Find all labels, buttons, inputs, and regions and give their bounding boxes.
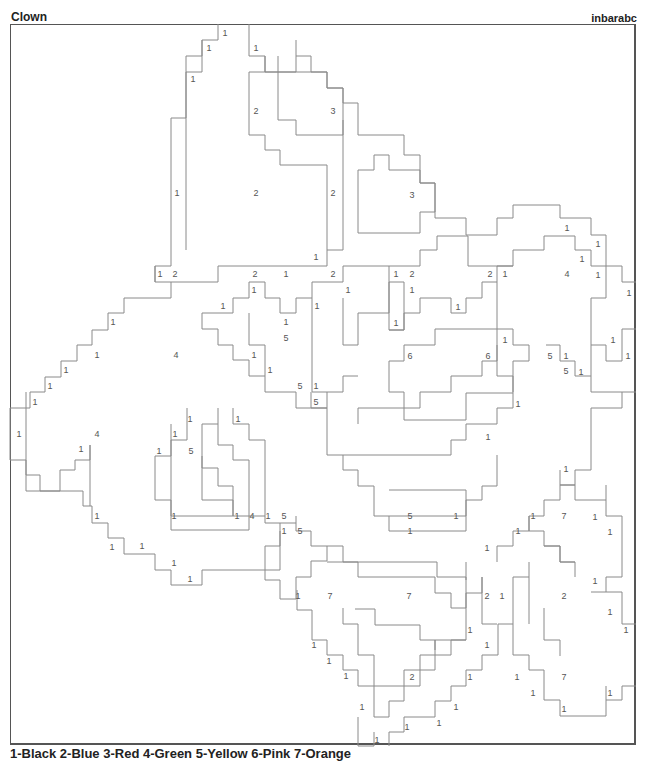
color-number-label: 1: [453, 512, 458, 521]
region-outline: [482, 577, 497, 624]
color-number-label: 1: [314, 302, 319, 311]
color-number-label: 1: [563, 352, 568, 361]
color-number-label: 2: [409, 270, 414, 279]
region-outline: [343, 455, 497, 516]
color-number-label: 2: [409, 673, 414, 682]
color-number-label: 2: [252, 270, 257, 279]
color-number-label: 2: [330, 189, 335, 198]
color-number-label: 1: [343, 672, 348, 681]
color-number-label: 1: [94, 351, 99, 360]
color-number-label: 6: [485, 352, 490, 361]
color-number-label: 1: [579, 255, 584, 264]
region-outline: [312, 298, 327, 392]
color-number-label: 1: [467, 673, 472, 682]
color-number-label: 7: [406, 592, 411, 601]
region-outline: [26, 392, 296, 585]
color-number-label: 1: [530, 689, 535, 698]
color-number-label: 1: [171, 512, 176, 521]
color-number-label: 7: [561, 512, 566, 521]
region-outline: [233, 408, 280, 523]
color-number-label: 5: [547, 352, 552, 361]
color-number-label: 5: [283, 334, 288, 343]
region-outline: [358, 155, 435, 233]
region-outline: [544, 546, 575, 562]
color-number-label: 1: [485, 433, 490, 442]
color-number-label: 6: [407, 352, 412, 361]
color-number-label: 1: [578, 368, 583, 377]
color-number-label: 1: [281, 527, 286, 536]
region-outline: [278, 40, 343, 135]
region-outline: [186, 40, 202, 250]
color-number-label: 1: [171, 559, 176, 568]
color-number-label: 1: [251, 286, 256, 295]
color-number-label: 1: [47, 382, 52, 391]
color-number-label: 1: [374, 736, 379, 745]
color-number-label: 4: [94, 430, 99, 439]
region-outline: [265, 531, 327, 599]
region-outline: [355, 609, 435, 650]
color-number-label: 1: [607, 689, 612, 698]
region-outline: [560, 470, 636, 624]
color-number-label: 1: [530, 512, 535, 521]
color-number-label: 3: [409, 191, 414, 200]
color-number-label: 1: [563, 465, 568, 474]
color-number-label: 1: [623, 626, 628, 635]
color-number-label: 2: [172, 270, 177, 279]
color-number-label: 1: [467, 626, 472, 635]
color-number-label: 1: [283, 318, 288, 327]
region-outline: [202, 236, 437, 408]
color-number-label: 1: [265, 512, 270, 521]
color-number-label: 2: [253, 107, 258, 116]
region-outline: [296, 516, 466, 580]
color-number-label: 1: [187, 415, 192, 424]
color-number-label: 4: [173, 351, 178, 360]
region-outline: [327, 562, 482, 608]
color-number-label: 1: [234, 512, 239, 521]
color-number-label: 1: [561, 705, 566, 714]
color-number-label: 1: [172, 430, 177, 439]
color-number-label: 1: [206, 44, 211, 53]
region-outline: [358, 717, 374, 746]
color-number-label: 4: [564, 270, 569, 279]
color-number-label: 1: [592, 577, 597, 586]
color-number-label: 1: [502, 336, 507, 345]
color-number-label: 1: [515, 400, 520, 409]
color-number-label: 1: [607, 608, 612, 617]
color-number-label: 1: [157, 270, 162, 279]
color-number-label: 5: [297, 382, 302, 391]
color-number-label: 1: [345, 286, 350, 295]
color-number-label: 1: [187, 575, 192, 584]
color-number-label: 1: [109, 543, 114, 552]
color-number-label: 3: [330, 107, 335, 116]
color-number-label: 1: [16, 430, 21, 439]
color-number-label: 1: [484, 544, 489, 553]
color-number-label: 1: [592, 513, 597, 522]
color-number-label: 2: [330, 270, 335, 279]
region-outline: [249, 24, 636, 282]
color-number-label: 1: [78, 445, 83, 454]
color-number-label: 5: [188, 447, 193, 456]
color-number-label: 2: [561, 592, 566, 601]
color-number-label: 1: [610, 336, 615, 345]
color-number-label: 1: [94, 512, 99, 521]
region-outline: [10, 120, 343, 408]
color-number-label: 1: [502, 270, 507, 279]
color-number-label: 1: [453, 703, 458, 712]
color-number-label: 7: [561, 673, 566, 682]
color-number-label: 1: [267, 366, 272, 375]
color-number-label: 1: [393, 319, 398, 328]
color-number-label: 1: [190, 75, 195, 84]
color-number-label: 5: [313, 398, 318, 407]
color-number-label: 1: [253, 44, 258, 53]
color-number-label: 1: [110, 318, 115, 327]
color-number-label: 1: [514, 673, 519, 682]
color-number-label: 1: [595, 271, 600, 280]
color-number-label: 1: [311, 641, 316, 650]
color-number-label: 1: [32, 398, 37, 407]
region-outline: [389, 266, 513, 330]
color-number-label: 1: [455, 303, 460, 312]
color-number-label: 1: [222, 29, 227, 38]
color-number-label: 1: [499, 592, 504, 601]
region-outline: [249, 56, 327, 250]
color-number-label: 1: [295, 592, 300, 601]
